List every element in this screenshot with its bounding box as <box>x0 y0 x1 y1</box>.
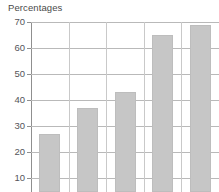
y-axis-tick-label: 60 <box>0 43 25 53</box>
bar[interactable] <box>190 25 211 192</box>
vertical-gridline <box>181 22 182 192</box>
vertical-gridline <box>106 22 107 192</box>
y-axis-tick-label: 70 <box>0 17 25 27</box>
bar[interactable] <box>152 35 173 192</box>
bar[interactable] <box>115 92 136 192</box>
vertical-gridline <box>144 22 145 192</box>
vertical-gridline <box>69 22 70 192</box>
plot-area <box>31 22 219 192</box>
bar[interactable] <box>77 108 98 192</box>
y-axis-tick-label: 50 <box>0 69 25 79</box>
bar[interactable] <box>39 134 60 192</box>
bar-chart: Percentages 70605040302010 <box>0 0 219 192</box>
y-axis-tick-label: 20 <box>0 147 25 157</box>
y-axis-tick-label: 40 <box>0 95 25 105</box>
y-axis-tick-label: 10 <box>0 173 25 183</box>
chart-title: Percentages <box>8 2 62 13</box>
y-axis-tick-label: 30 <box>0 121 25 131</box>
gridline <box>31 22 219 23</box>
